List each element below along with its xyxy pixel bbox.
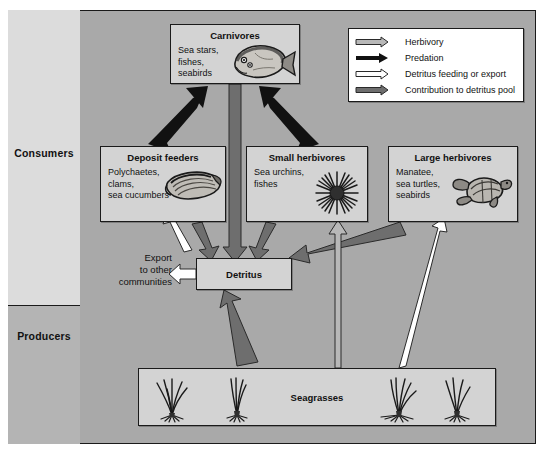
legend-label-detritus-feeding: Detritus feeding or export bbox=[405, 69, 506, 79]
box-carnivores-body: Sea stars, fishes, seabirds bbox=[171, 41, 299, 80]
box-small-herbivores-line-1: Sea urchins, bbox=[254, 167, 363, 179]
box-small-herbivores-title: Small herbivores bbox=[247, 147, 367, 163]
box-large-herbivores-line-1: Manatee, bbox=[396, 167, 513, 179]
box-seagrasses-title: Seagrasses bbox=[291, 392, 344, 403]
seagrass-icon bbox=[435, 375, 479, 423]
legend-label-predation: Predation bbox=[405, 53, 444, 63]
box-small-herbivores[interactable]: Small herbivores Sea urchins, fishes bbox=[246, 146, 368, 222]
category-panel-producers: Producers bbox=[8, 306, 80, 444]
export-label-line-3: communities bbox=[96, 276, 172, 288]
legend-label-herbivory: Herbivory bbox=[405, 37, 444, 47]
seagrass-icon bbox=[375, 375, 423, 423]
box-carnivores-title: Carnivores bbox=[171, 25, 299, 41]
white-outline-arrow-icon bbox=[355, 68, 399, 80]
seagrass-icon bbox=[217, 375, 257, 423]
box-deposit-feeders-line-3: sea cucumbers bbox=[108, 190, 221, 202]
category-panel-consumers: Consumers bbox=[8, 10, 80, 306]
box-large-herbivores-body: Manatee, sea turtles, seabirds bbox=[389, 163, 517, 202]
box-seagrasses[interactable]: Seagrasses bbox=[138, 368, 496, 426]
box-deposit-feeders-line-2: clams, bbox=[108, 179, 221, 191]
seagrass-icon bbox=[149, 375, 195, 423]
export-label-line-2: to other bbox=[96, 264, 172, 276]
export-label-line-1: Export bbox=[96, 252, 172, 264]
box-carnivores-line-1: Sea stars, bbox=[178, 45, 295, 57]
box-large-herbivores-line-3: seabirds bbox=[396, 190, 513, 202]
black-arrow-icon bbox=[355, 52, 399, 64]
box-large-herbivores-title: Large herbivores bbox=[389, 147, 517, 163]
box-deposit-feeders[interactable]: Deposit feeders Polychaetes, clams, sea … bbox=[100, 146, 226, 222]
legend: Herbivory Predation Detritus feeding or … bbox=[348, 28, 524, 102]
dark-gray-arrow-icon bbox=[355, 84, 399, 96]
box-large-herbivores-line-2: sea turtles, bbox=[396, 179, 513, 191]
box-detritus[interactable]: Detritus bbox=[196, 258, 292, 290]
box-deposit-feeders-line-1: Polychaetes, bbox=[108, 167, 221, 179]
box-carnivores-line-3: seabirds bbox=[178, 68, 295, 80]
box-large-herbivores[interactable]: Large herbivores Manatee, sea turtles, s… bbox=[388, 146, 518, 222]
legend-entry-contribution: Contribution to detritus pool bbox=[355, 82, 519, 98]
category-label-consumers: Consumers bbox=[14, 147, 74, 159]
box-carnivores-line-2: fishes, bbox=[178, 57, 295, 69]
category-column: Consumers Producers bbox=[8, 10, 80, 444]
box-deposit-feeders-body: Polychaetes, clams, sea cucumbers bbox=[101, 163, 225, 202]
box-carnivores[interactable]: Carnivores Sea stars, fishes, seabirds bbox=[170, 24, 300, 84]
light-gray-arrow-icon bbox=[355, 36, 399, 48]
food-web-diagram: Consumers Producers bbox=[0, 0, 545, 455]
box-deposit-feeders-title: Deposit feeders bbox=[101, 147, 225, 163]
box-small-herbivores-line-2: fishes bbox=[254, 179, 363, 191]
legend-entry-herbivory: Herbivory bbox=[355, 34, 519, 50]
legend-entry-predation: Predation bbox=[355, 50, 519, 66]
export-label: Export to other communities bbox=[96, 252, 172, 288]
box-detritus-title: Detritus bbox=[226, 269, 262, 280]
category-label-producers: Producers bbox=[17, 330, 71, 342]
legend-entry-detritus-feeding: Detritus feeding or export bbox=[355, 66, 519, 82]
box-small-herbivores-body: Sea urchins, fishes bbox=[247, 163, 367, 190]
legend-label-contribution: Contribution to detritus pool bbox=[405, 85, 515, 95]
